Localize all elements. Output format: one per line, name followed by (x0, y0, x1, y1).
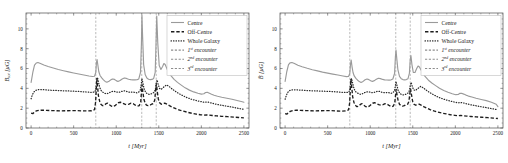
ytick-label: 2 (274, 105, 277, 111)
series-off-centre (31, 78, 244, 117)
chart-right: 050010001500200025000246810t [Myr]B̄ [μG… (254, 0, 508, 163)
ytick-label: 10 (18, 26, 24, 32)
legend-label: Centre (188, 20, 203, 26)
legend-label: Whole Galaxy (442, 38, 475, 44)
xtick-label: 500 (70, 130, 78, 136)
y-axis-label: Btot [μG] (3, 59, 11, 82)
ytick-label: 4 (20, 85, 23, 91)
ytick-label: 8 (274, 46, 277, 52)
xtick-label: 0 (284, 130, 287, 136)
figure-two-panel: 050010001500200025000246810t [Myr]Btot [… (0, 0, 508, 163)
xtick-label: 2500 (239, 130, 250, 136)
legend-label: Off-Centre (442, 29, 467, 35)
xtick-label: 1500 (154, 130, 165, 136)
y-axis-label: B̄ [μG] (257, 61, 264, 79)
ytick-label: 4 (274, 85, 277, 91)
legend-label: Centre (442, 20, 457, 26)
x-axis-label: t [Myr] (128, 142, 147, 149)
x-axis-label: t [Myr] (382, 142, 401, 149)
ytick-label: 0 (274, 125, 277, 131)
xtick-label: 1000 (111, 130, 122, 136)
xtick-label: 2500 (493, 130, 504, 136)
ytick-label: 10 (272, 26, 278, 32)
legend-label: Whole Galaxy (188, 38, 221, 44)
xtick-label: 1000 (365, 130, 376, 136)
ytick-label: 6 (20, 65, 23, 71)
xtick-label: 2000 (196, 130, 207, 136)
xtick-label: 2000 (450, 130, 461, 136)
legend-label: Off-Centre (188, 29, 213, 35)
series-off-centre (285, 79, 498, 118)
panel-left: 050010001500200025000246810t [Myr]Btot [… (0, 0, 254, 163)
xtick-label: 0 (30, 130, 33, 136)
legend-label: 1st encounter (442, 47, 472, 53)
chart-left: 050010001500200025000246810t [Myr]Btot [… (0, 0, 254, 163)
series-whole-galaxy (31, 77, 244, 109)
series-whole-galaxy (285, 78, 498, 109)
xtick-label: 1500 (408, 130, 419, 136)
ytick-label: 8 (20, 46, 23, 52)
legend-label: 1st encounter (188, 47, 218, 53)
ytick-label: 0 (20, 125, 23, 131)
panel-right: 050010001500200025000246810t [Myr]B̄ [μG… (254, 0, 508, 163)
ytick-label: 2 (20, 105, 23, 111)
ytick-label: 6 (274, 65, 277, 71)
xtick-label: 500 (324, 130, 332, 136)
